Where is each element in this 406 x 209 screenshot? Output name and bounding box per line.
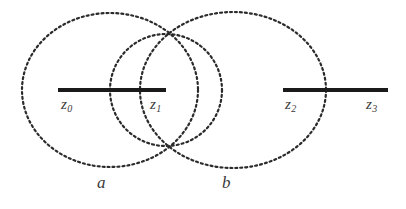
label-z2-subscript: 2 (291, 103, 296, 114)
label-z3-base: z (366, 96, 372, 112)
label-z0-subscript: 0 (67, 103, 72, 114)
label-region-b: b (222, 174, 231, 191)
label-z0-base: z (61, 96, 67, 112)
label-z1-base: z (150, 96, 156, 112)
label-z1: z1 (150, 97, 161, 112)
label-region-a: a (97, 174, 106, 191)
label-z3: z3 (366, 97, 377, 112)
label-z3-subscript: 3 (372, 103, 377, 114)
label-z2: z2 (285, 97, 296, 112)
label-z2-base: z (285, 96, 291, 112)
label-z0: z0 (61, 97, 72, 112)
figure-canvas: z0 z1 z2 z3 a b (0, 0, 406, 209)
label-z1-subscript: 1 (156, 103, 161, 114)
